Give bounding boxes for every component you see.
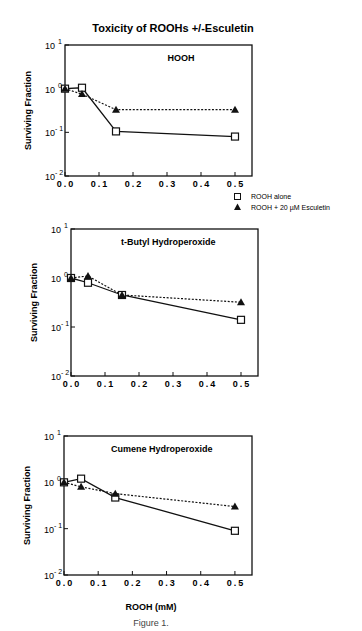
x-tick-label: 0.0 xyxy=(56,578,75,588)
figure-caption: Figure 1. xyxy=(133,618,169,628)
y-tick-label: 10 xyxy=(45,41,55,51)
data-point-triangle xyxy=(111,490,119,497)
x-tick-label: 0.4 xyxy=(193,179,212,189)
panel-title: t-Butyl Hydroperoxide xyxy=(121,237,216,247)
series-line-rooh-esculetin xyxy=(71,276,241,302)
series-line-rooh-alone xyxy=(65,88,235,137)
chart-panel-1: 0.00.10.20.30.40.510110010- 110- 2Surviv… xyxy=(23,38,252,189)
y-tick-exponent: 1 xyxy=(58,38,62,45)
panel-title: HOOH xyxy=(167,53,194,63)
y-axis-label: Surviving Fraction xyxy=(22,466,32,545)
panel-title: Cumene Hydroperoxide xyxy=(111,444,213,454)
plot-frame xyxy=(71,229,258,376)
chart-panel-2: 0.00.10.20.30.40.510110010- 110- 2Surviv… xyxy=(29,222,258,389)
data-point-triangle xyxy=(84,272,92,279)
series-line-rooh-esculetin xyxy=(64,482,235,506)
figure-canvas: Toxicity of ROOHs +/-Esculetin 0.00.10.2… xyxy=(0,0,362,631)
x-tick-label: 0.3 xyxy=(165,379,184,389)
legend-item-rooh-esculetin: ROOH + 20 µM Esculetin xyxy=(234,204,330,213)
y-tick-label: 10 xyxy=(51,225,61,235)
x-tick-label: 0.2 xyxy=(125,179,144,189)
data-point-triangle xyxy=(231,106,239,113)
y-axis-label: Surviving Fraction xyxy=(29,263,39,342)
x-tick-label: 0.1 xyxy=(97,379,116,389)
open-square-icon xyxy=(235,194,241,200)
y-tick-exponent: 1 xyxy=(64,222,68,229)
legend: ROOH alone ROOH + 20 µM Esculetin xyxy=(234,193,330,212)
y-tick-label: 10 xyxy=(44,525,54,535)
x-axis-label: ROOH (mM) xyxy=(126,602,177,612)
x-tick-label: 0.3 xyxy=(158,578,177,588)
data-point-square xyxy=(113,128,120,135)
y-tick-label: 10 xyxy=(44,478,54,488)
panels: 0.00.10.20.30.40.510110010- 110- 2Surviv… xyxy=(22,38,258,588)
x-tick-label: 0.5 xyxy=(227,578,246,588)
y-axis-label: Surviving Fraction xyxy=(23,71,33,150)
data-point-square xyxy=(231,527,238,534)
y-tick-exponent: - 2 xyxy=(54,568,62,575)
figure-title: Toxicity of ROOHs +/-Esculetin xyxy=(92,22,254,34)
y-tick-label: 10 xyxy=(51,323,61,333)
y-tick-label: 10 xyxy=(45,172,55,182)
data-point-square xyxy=(238,316,245,323)
plot-frame xyxy=(64,436,252,575)
y-tick-label: 10 xyxy=(45,128,55,138)
y-tick-exponent: - 2 xyxy=(61,369,69,376)
y-tick-label: 10 xyxy=(51,274,61,284)
data-point-triangle xyxy=(237,298,245,305)
series-line-rooh-alone xyxy=(71,278,241,320)
x-tick-label: 0.1 xyxy=(91,179,110,189)
plot-frame xyxy=(65,45,252,176)
x-tick-label: 0.5 xyxy=(227,179,246,189)
x-tick-label: 0.2 xyxy=(124,578,143,588)
y-tick-label: 10 xyxy=(44,571,54,581)
y-tick-label: 10 xyxy=(44,432,54,442)
series-line-rooh-alone xyxy=(64,479,235,531)
legend-item-rooh-alone: ROOH alone xyxy=(235,193,292,200)
y-tick-label: 10 xyxy=(51,372,61,382)
x-tick-label: 0.4 xyxy=(199,379,218,389)
x-tick-label: 0.1 xyxy=(90,578,109,588)
y-tick-exponent: - 1 xyxy=(61,320,69,327)
legend-label: ROOH alone xyxy=(251,193,291,200)
x-tick-label: 0.0 xyxy=(63,379,82,389)
legend-label: ROOH + 20 µM Esculetin xyxy=(251,204,330,212)
x-tick-label: 0.2 xyxy=(131,379,150,389)
chart-panel-3: 0.00.10.20.30.40.510110010- 110- 2Surviv… xyxy=(22,429,252,588)
x-tick-label: 0.5 xyxy=(233,379,252,389)
x-tick-label: 0.0 xyxy=(57,179,76,189)
data-point-square xyxy=(85,279,92,286)
data-point-square xyxy=(232,133,239,140)
y-tick-label: 10 xyxy=(45,85,55,95)
filled-triangle-icon xyxy=(234,204,241,211)
y-tick-exponent: - 2 xyxy=(55,169,63,176)
data-point-square xyxy=(78,475,85,482)
y-tick-exponent: - 1 xyxy=(54,522,62,529)
y-tick-exponent: - 1 xyxy=(55,125,63,132)
x-tick-label: 0.3 xyxy=(159,179,178,189)
x-tick-label: 0.4 xyxy=(192,578,211,588)
y-tick-exponent: 1 xyxy=(57,429,61,436)
